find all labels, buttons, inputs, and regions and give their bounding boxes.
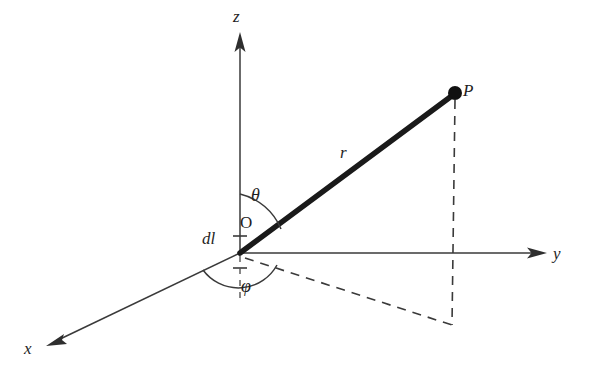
origin-label: O	[240, 214, 252, 231]
phi-angle-label: φ	[241, 277, 251, 295]
diagram-canvas	[0, 0, 592, 369]
y-axis	[240, 248, 547, 259]
x-axis-line	[56, 253, 240, 341]
p-vertical-projection-line	[452, 100, 455, 325]
y-axis-label: y	[553, 245, 561, 262]
field-point-label: P	[463, 82, 473, 99]
radius-vector-r	[240, 95, 453, 253]
current-element-label: dl	[202, 230, 215, 247]
z-axis-label: z	[233, 8, 240, 25]
spherical-coordinate-diagram: z y x O P r θ φ dl	[0, 0, 592, 369]
x-axis-label: x	[24, 340, 32, 357]
theta-angle-label: θ	[251, 186, 260, 204]
x-axis	[46, 253, 240, 346]
radius-vector-label: r	[340, 144, 347, 161]
x-axis-arrowhead	[46, 334, 67, 346]
field-point-p-marker	[448, 86, 462, 100]
